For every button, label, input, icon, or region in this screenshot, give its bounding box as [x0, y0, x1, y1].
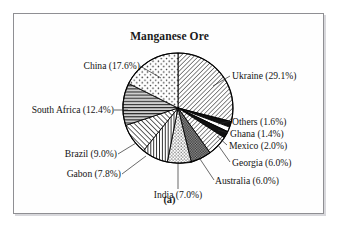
figure-caption: (a): [14, 194, 325, 205]
label-others: Others (1.6%): [232, 116, 286, 128]
label-brazil: Brazil (9.0%): [65, 148, 117, 160]
leader-gabon: [122, 156, 146, 174]
leader-brazil: [118, 143, 136, 154]
pie-chart: China (17.6%) South Africa (12.4%) Brazi…: [14, 14, 325, 215]
label-gabon: Gabon (7.8%): [67, 168, 121, 180]
leader-australia: [200, 159, 214, 180]
label-ghana: Ghana (1.4%): [230, 128, 284, 140]
label-south-africa: South Africa (12.4%): [32, 104, 114, 116]
label-australia: Australia (6.0%): [215, 175, 279, 187]
figure-frame: Manganese Ore: [13, 13, 324, 214]
label-ukraine: Ukraine (29.1%): [232, 70, 296, 82]
label-china: China (17.6%): [84, 60, 141, 72]
figure-panel: Manganese Ore: [0, 0, 342, 231]
label-georgia: Georgia (6.0%): [232, 157, 292, 169]
label-mexico: Mexico (2.0%): [229, 140, 287, 152]
